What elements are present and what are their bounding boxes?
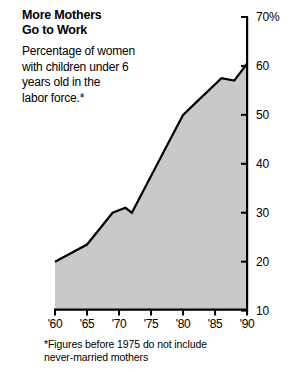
y-axis-tick-label: 20 (256, 256, 269, 268)
y-axis-tick-label: 10 (256, 305, 269, 317)
area-series-fill (55, 63, 247, 310)
chart-footnote: *Figures before 1975 do not include neve… (44, 338, 207, 364)
x-axis-tick-label: '85 (208, 318, 223, 330)
y-axis-tick-label: 70% (256, 11, 279, 23)
x-axis-tick-label: '65 (80, 318, 95, 330)
x-axis-tick-label: '90 (240, 318, 255, 330)
x-axis-tick-label: '75 (144, 318, 159, 330)
chart-figure: More Mothers Go to Work Percentage of wo… (0, 0, 291, 372)
x-axis-tick-label: '60 (48, 318, 63, 330)
y-axis-tick-label: 50 (256, 109, 269, 121)
y-axis-tick-label: 30 (256, 207, 269, 219)
x-axis-tick-label: '70 (112, 318, 127, 330)
y-axis-tick-label: 60 (256, 60, 269, 72)
y-axis-tick-label: 40 (256, 158, 269, 170)
x-axis-tick-label: '80 (176, 318, 191, 330)
